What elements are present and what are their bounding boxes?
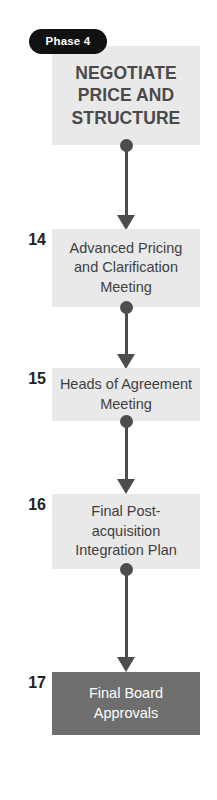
phase-flowchart: Phase 4 NEGOTIATE PRICE AND STRUCTURE 14… [0, 0, 217, 800]
connector-line [125, 307, 128, 360]
step-number-16: 16 [14, 497, 46, 513]
arrow-down-icon [117, 657, 135, 672]
arrow-down-icon [117, 215, 135, 230]
phase-title-box: NEGOTIATE PRICE AND STRUCTURE [52, 46, 200, 145]
step-box-16: Final Post-acquisition Integration Plan [52, 494, 200, 569]
step-label-14: Advanced Pricing and Clarification Meeti… [58, 239, 194, 298]
arrow-down-icon [117, 479, 135, 494]
step-label-15: Heads of Agreement Meeting [58, 375, 194, 414]
step-label-16: Final Post-acquisition Integration Plan [58, 502, 194, 561]
step-box-14: Advanced Pricing and Clarification Meeti… [52, 229, 200, 307]
connector-line [125, 145, 128, 221]
step-box-17: Final Board Approvals [52, 672, 200, 735]
step-number-14: 14 [14, 232, 46, 248]
step-box-15: Heads of Agreement Meeting [52, 368, 200, 421]
phase-badge-label: Phase 4 [46, 36, 91, 48]
connector-line [125, 569, 128, 663]
step-number-15: 15 [14, 371, 46, 387]
phase-title-text: NEGOTIATE PRICE AND STRUCTURE [58, 62, 194, 129]
step-label-17: Final Board Approvals [58, 684, 194, 723]
step-number-17: 17 [14, 675, 46, 691]
phase-badge: Phase 4 [29, 29, 107, 54]
arrow-down-icon [117, 354, 135, 369]
connector-line [125, 421, 128, 485]
